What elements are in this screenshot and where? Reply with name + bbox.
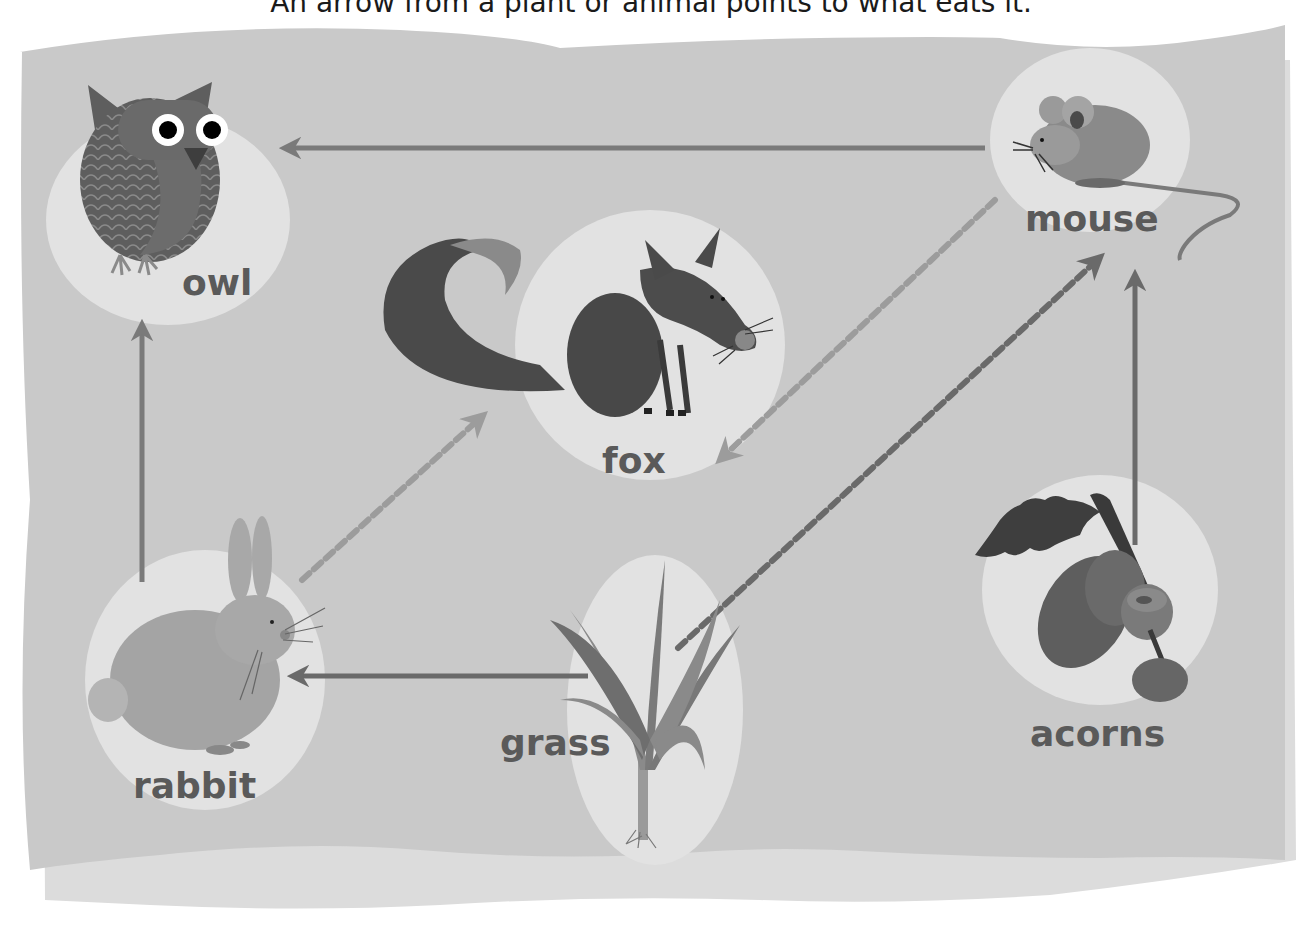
owl-label: owl: [182, 262, 252, 303]
mouse-label: mouse: [1025, 198, 1159, 239]
fox-label: fox: [602, 440, 666, 481]
grass-label: grass: [500, 722, 611, 763]
acorns-label: acorns: [1030, 713, 1165, 754]
rabbit-label: rabbit: [133, 765, 256, 806]
